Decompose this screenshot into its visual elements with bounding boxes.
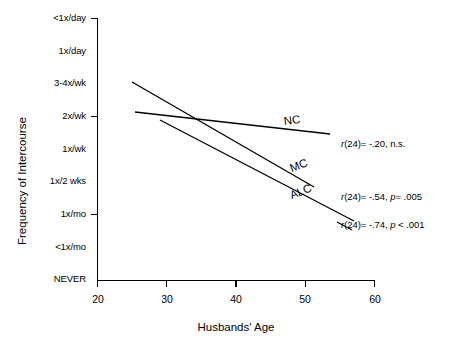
stat-mc-body: (24)= -.54, bbox=[344, 191, 390, 202]
chart-container: <1x/day 1x/day 3-4x/wk 2x/wk 1x/wk 1x/2 … bbox=[0, 0, 454, 349]
stat-mc-tail: = .005 bbox=[396, 191, 422, 202]
y-tick-label-2: 3-4x/wk bbox=[20, 78, 86, 88]
y-tick-label-6: 1x/mo bbox=[20, 209, 86, 219]
y-axis-title: Frequency of Intercourse bbox=[16, 117, 28, 245]
series-label-nc: NC bbox=[283, 113, 301, 127]
x-axis-title: Husbands' Age bbox=[166, 321, 306, 333]
stat-alc-tail: < .001 bbox=[396, 219, 425, 230]
x-tick-label-0: 20 bbox=[78, 293, 118, 305]
stat-nc-body: (24)= -.20, n.s. bbox=[344, 138, 405, 149]
series-line-alc bbox=[160, 120, 354, 221]
y-tick-label-0: <1x/day bbox=[20, 13, 86, 23]
x-tick-label-2: 40 bbox=[216, 293, 256, 305]
x-tick-label-1: 30 bbox=[147, 293, 187, 305]
y-tick-label-8: NEVER bbox=[20, 274, 86, 284]
stat-annotation-alc: r(24)= -.74, p < .001 bbox=[341, 219, 424, 230]
y-tick-label-1: 1x/day bbox=[20, 46, 86, 56]
y-tick-label-7: <1x/mo bbox=[20, 242, 86, 252]
stat-annotation-nc: r(24)= -.20, n.s. bbox=[341, 138, 405, 149]
y-tick-label-5: 1x/2 wks bbox=[20, 176, 86, 186]
x-tick-label-3: 50 bbox=[285, 293, 325, 305]
stat-annotation-mc: r(24)= -.54, p= .005 bbox=[341, 191, 422, 202]
series-line-mc bbox=[132, 82, 314, 187]
y-tick-label-3: 2x/wk bbox=[20, 111, 86, 121]
y-tick-label-4: 1x/wk bbox=[20, 144, 86, 154]
x-tick-label-4: 60 bbox=[355, 293, 395, 305]
stat-alc-body: (24)= -.74, bbox=[344, 219, 390, 230]
